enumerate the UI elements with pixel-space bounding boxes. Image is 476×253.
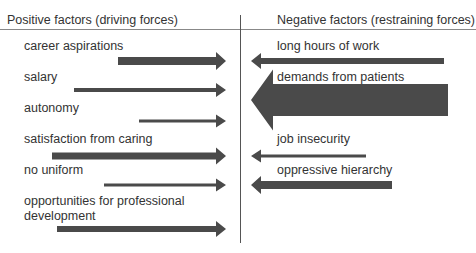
right-arrow-icon (118, 52, 226, 70)
left-arrow-icon (251, 176, 392, 194)
right-arrow-icon (52, 148, 226, 165)
right-arrow-icon (104, 179, 226, 192)
force-arrows (0, 0, 476, 253)
left-arrow-icon (251, 53, 444, 69)
left-arrow-icon (251, 70, 448, 131)
right-arrow-icon (139, 115, 226, 128)
right-arrow-icon (57, 221, 226, 237)
right-arrow-icon (74, 83, 226, 97)
left-arrow-icon (251, 150, 366, 163)
